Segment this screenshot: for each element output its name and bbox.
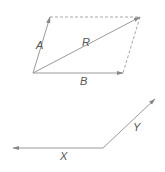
vector-addition-diagram: A B R X Y xyxy=(0,0,165,172)
vector-y-label: Y xyxy=(133,121,141,133)
vector-x-label: X xyxy=(59,150,68,162)
vector-r-label: R xyxy=(82,36,90,48)
diagram-canvas: A B R X Y xyxy=(0,0,165,172)
dashed-edge-right xyxy=(123,17,140,73)
parallelogram-group: A B R xyxy=(33,17,140,87)
vector-y-arrow xyxy=(103,99,155,148)
vector-a-label: A xyxy=(35,39,43,51)
vector-b-label: B xyxy=(80,75,87,87)
xy-vector-group: X Y xyxy=(13,99,155,162)
